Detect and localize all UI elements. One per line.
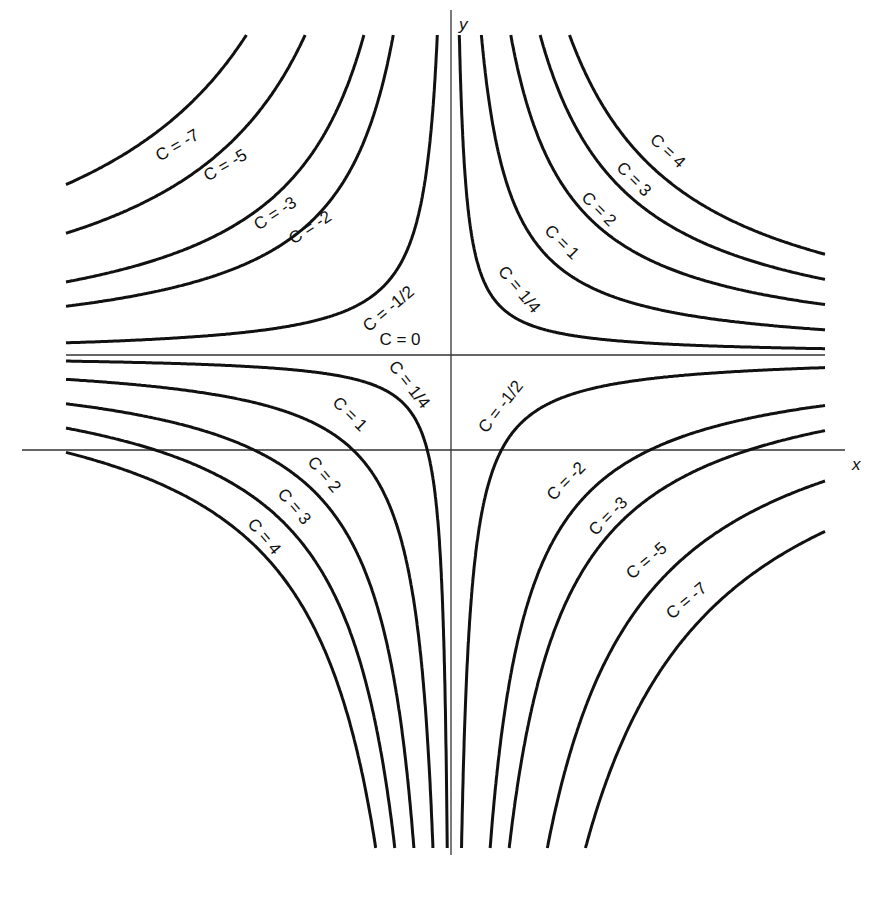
curve-label: C = -5 (200, 145, 250, 185)
curve-label: C = 4 (244, 515, 285, 559)
curve-label: C = 0 (379, 330, 420, 349)
solution-curves (66, 35, 825, 848)
curve-left-branch (66, 404, 414, 848)
curve-label: C = 1 (329, 393, 372, 436)
curve-left-branch (66, 452, 376, 848)
y-axis-label: y (458, 15, 469, 34)
curve-label: C = 3 (274, 485, 315, 529)
curve-right-branch (490, 405, 825, 848)
curve-right-branch (481, 35, 825, 330)
curve-label: C = 1/4 (385, 357, 434, 412)
curve-left-branch (66, 361, 447, 848)
x-axis-label: x (851, 455, 861, 474)
curve-right-branch (547, 481, 825, 848)
curve-label: C = -1/2 (359, 282, 418, 336)
curve-label: C = -3 (585, 493, 632, 540)
curve-label: C = 2 (578, 188, 621, 231)
curve-right-branch (462, 368, 826, 848)
curve-right-branch (511, 35, 825, 305)
curve-label: C = 2 (304, 453, 345, 497)
curve-left-branch (66, 428, 395, 848)
hyperbola-family-chart: x y C = -7C = -5C = -3C = -2C = -1/2C = … (0, 0, 886, 907)
curve-labels: C = -7C = -5C = -3C = -2C = -1/2C = 0C =… (152, 125, 710, 623)
curve-label: C = -1/2 (474, 377, 526, 437)
curve-right-branch (586, 531, 826, 848)
